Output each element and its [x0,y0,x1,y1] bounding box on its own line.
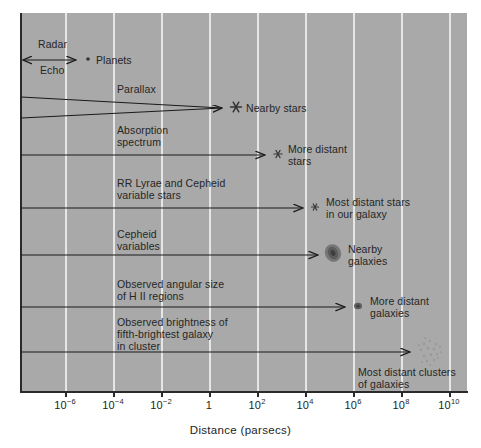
x-tick-7 [353,392,355,397]
method-label-absorption-line1: Absorption [117,124,168,137]
tick-base: 10 [54,399,67,411]
gridline-1 [65,13,67,392]
method-label-cepheid-line1: Cepheid [117,228,157,241]
tick-base: 1 [206,399,212,411]
x-tick-5 [257,392,259,397]
x-tick-4 [209,392,211,397]
tick-exponent: 6 [357,397,361,406]
y-axis-line [20,13,22,392]
method-label-cepheid-line2: variables [117,240,160,253]
target-label-nearby-galaxies-line1: Nearby [348,243,382,256]
tick-exponent: −6 [67,397,76,406]
x-tick-3 [161,392,163,397]
gridline-5 [257,13,259,392]
tick-exponent: 8 [405,397,409,406]
method-label-rrlyrae-line2: variable stars [117,189,181,202]
x-tick-9 [449,392,451,397]
tick-base: 10 [248,399,261,411]
method-label-hii-line2: of H II regions [117,290,184,303]
tick-base: 10 [344,399,357,411]
x-tick-6 [305,392,307,397]
tick-base: 10 [102,399,115,411]
x-tick-label-9: 1010 [438,399,459,411]
target-label-nearby-stars: Nearby stars [246,102,307,115]
target-label-more-distant-galaxies-line2: galaxies [370,307,409,320]
target-label-more-distant-galaxies-line1: More distant [370,295,429,308]
x-tick-label-6: 104 [296,399,313,411]
x-tick-label-4: 1 [206,399,212,411]
method-label-rrlyrae-line1: RR Lyrae and Cepheid [117,177,225,190]
tick-base: 10 [296,399,309,411]
method-label-radar: Radar [38,38,67,51]
x-tick-label-5: 102 [248,399,265,411]
x-tick-1 [65,392,67,397]
method-label-absorption-line2: spectrum [117,136,161,149]
target-label-most-distant-stars-line1: Most distant stars [326,196,410,209]
x-tick-label-8: 108 [392,399,409,411]
target-label-nearby-galaxies-line2: galaxies [348,255,387,268]
x-tick-label-7: 106 [344,399,361,411]
gridline-6 [305,13,307,392]
tick-exponent: 10 [451,397,460,406]
target-label-most-distant-clusters-line2: of galaxies [358,378,409,391]
x-axis-title: Distance (parsecs) [0,424,481,436]
method-label-brightness-line2: fifth-brightest galaxy [117,328,213,341]
method-label-parallax: Parallax [117,83,156,96]
method-label-brightness-line3: in cluster [117,340,160,353]
x-tick-2 [113,392,115,397]
target-label-most-distant-clusters-line1: Most distant clusters [358,366,456,379]
tick-base: 10 [150,399,163,411]
gridline-2 [113,13,115,392]
tick-exponent: 4 [309,397,313,406]
tick-exponent: −2 [163,397,172,406]
target-label-planets: Planets [96,54,132,67]
x-tick-label-2: 10−4 [102,399,124,411]
target-label-most-distant-stars-line2: in our galaxy [326,208,387,221]
gridline-9 [449,13,451,392]
distance-ladder-figure: 10−6 10−4 10−2 1 102 104 106 108 1010 Di… [0,0,481,448]
x-tick-label-3: 10−2 [150,399,172,411]
tick-exponent: 2 [261,397,265,406]
method-label-brightness-line1: Observed brightness of [117,316,228,329]
tick-base: 10 [392,399,405,411]
method-label-hii-line1: Observed angular size [117,278,224,291]
tick-exponent: −4 [115,397,124,406]
x-tick-8 [401,392,403,397]
tick-base: 10 [438,399,451,411]
target-label-more-distant-stars-line1: More distant [288,143,347,156]
x-tick-label-1: 10−6 [54,399,76,411]
method-label-echo: Echo [40,64,64,77]
target-label-more-distant-stars-line2: stars [288,155,311,168]
